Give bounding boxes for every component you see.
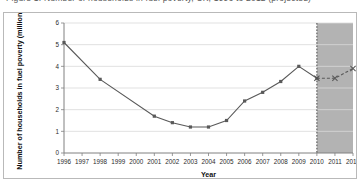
gridlines — [64, 23, 353, 131]
svg-text:1: 1 — [55, 128, 59, 135]
svg-text:2002: 2002 — [165, 158, 180, 165]
svg-text:0: 0 — [55, 149, 59, 156]
svg-text:2: 2 — [55, 106, 59, 113]
svg-text:2006: 2006 — [238, 158, 253, 165]
series-actual — [62, 41, 318, 129]
figure-container: Figure 1: Number of households in fuel p… — [0, 0, 360, 185]
svg-text:2009: 2009 — [292, 158, 307, 165]
svg-text:1998: 1998 — [93, 158, 108, 165]
svg-text:4: 4 — [55, 63, 59, 70]
svg-text:2008: 2008 — [274, 158, 289, 165]
svg-text:2001: 2001 — [147, 158, 162, 165]
svg-text:2000: 2000 — [129, 158, 144, 165]
chart-frame: 0123456 19961997199819992000200120022003… — [3, 12, 357, 179]
svg-text:3: 3 — [55, 84, 59, 91]
svg-text:2012: 2012 — [346, 158, 356, 165]
svg-text:2010: 2010 — [310, 158, 325, 165]
x-axis-tick-labels: 1996199719981999200020012002200320042005… — [57, 158, 356, 165]
svg-text:1997: 1997 — [75, 158, 90, 165]
x-axis-title: Year — [201, 170, 216, 178]
figure-title: Figure 1: Number of households in fuel p… — [6, 0, 311, 3]
svg-text:2005: 2005 — [220, 158, 235, 165]
svg-text:1996: 1996 — [57, 158, 72, 165]
svg-text:6: 6 — [55, 19, 59, 26]
y-axis-tick-labels: 0123456 — [55, 19, 59, 156]
svg-text:2007: 2007 — [256, 158, 271, 165]
svg-text:5: 5 — [55, 41, 59, 48]
y-axis-title: Number of households in fuel poverty (mi… — [15, 13, 24, 170]
line-chart: 0123456 19961997199819992000200120022003… — [4, 13, 356, 178]
svg-text:2003: 2003 — [183, 158, 198, 165]
svg-text:2004: 2004 — [201, 158, 216, 165]
svg-text:1999: 1999 — [111, 158, 126, 165]
figure-title-strip: Figure 1: Number of households in fuel p… — [0, 0, 360, 9]
svg-text:2011: 2011 — [328, 158, 342, 165]
